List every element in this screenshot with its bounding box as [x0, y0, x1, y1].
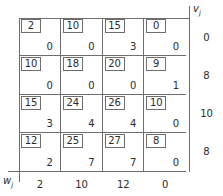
cost-value: 25 [63, 134, 83, 148]
cost-value: 15 [105, 19, 125, 33]
w-dual-value-3: 12 [103, 172, 145, 196]
cost-value: 27 [105, 134, 125, 148]
cost-grid: 2 0 10 0 15 3 0 0 10 0 18 0 20 0 9 [19, 18, 186, 171]
allocation-value: 3 [130, 42, 136, 52]
v-dual-value-3: 10 [190, 95, 223, 133]
allocation-value: 0 [88, 42, 94, 52]
table-cell-r1c1: 2 0 [19, 18, 61, 56]
allocation-value: 4 [88, 119, 94, 129]
w-dual-value-4: 0 [144, 172, 186, 196]
w-dual-value-2: 10 [61, 172, 103, 196]
allocation-value: 7 [130, 158, 136, 168]
table-cell-r3c1: 15 3 [19, 95, 61, 133]
table-cell-r2c3: 20 0 [103, 56, 145, 94]
table-cell-r3c3: 26 4 [103, 95, 145, 133]
allocation-value: 2 [46, 158, 52, 168]
cost-value: 0 [146, 19, 166, 33]
cost-value: 12 [21, 134, 41, 148]
table-cell-r4c2: 25 7 [61, 133, 103, 171]
allocation-value: 3 [46, 119, 52, 129]
w-axis-label-text: w [3, 175, 11, 186]
table-cell-r3c2: 24 4 [61, 95, 103, 133]
v-axis-label-sub: j [199, 9, 201, 17]
table-cell-r2c2: 18 0 [61, 56, 103, 94]
v-dual-value-4: 8 [190, 133, 223, 171]
cost-value: 10 [63, 19, 83, 33]
table-cell-r4c4: 8 0 [144, 133, 186, 171]
v-dual-value-2: 8 [190, 56, 223, 94]
cost-value: 9 [146, 57, 166, 71]
v-dual-value-1: 0 [190, 18, 223, 56]
allocation-value: 4 [130, 119, 136, 129]
allocation-value: 0 [88, 81, 94, 91]
cost-value: 24 [63, 96, 83, 110]
cost-value: 10 [146, 96, 166, 110]
table-cell-r4c1: 12 2 [19, 133, 61, 171]
table-cell-r3c4: 10 0 [144, 95, 186, 133]
table-cell-r2c1: 10 0 [19, 56, 61, 94]
allocation-value: 0 [130, 81, 136, 91]
allocation-value: 0 [173, 158, 179, 168]
cost-value: 20 [105, 57, 125, 71]
cost-value: 2 [21, 19, 41, 33]
allocation-value: 0 [46, 42, 52, 52]
allocation-value: 0 [173, 119, 179, 129]
w-axis-label: wj [3, 175, 13, 189]
cost-value: 26 [105, 96, 125, 110]
table-cell-r1c4: 0 0 [144, 18, 186, 56]
v-axis-label: vj [193, 3, 201, 17]
w-dual-value-1: 2 [19, 172, 61, 196]
allocation-value: 0 [173, 42, 179, 52]
allocation-value: 1 [173, 81, 179, 91]
table-cell-r4c3: 27 7 [103, 133, 145, 171]
table-cell-r1c2: 10 0 [61, 18, 103, 56]
cost-value: 18 [63, 57, 83, 71]
allocation-value: 0 [46, 81, 52, 91]
cost-value: 15 [21, 96, 41, 110]
w-dual-row: 2 10 12 0 [19, 172, 186, 196]
cost-value: 8 [146, 134, 166, 148]
table-cell-r1c3: 15 3 [103, 18, 145, 56]
tableau-figure: 2 0 10 0 15 3 0 0 10 0 18 0 20 0 9 [0, 0, 223, 196]
cost-value: 10 [21, 57, 41, 71]
allocation-value: 7 [88, 158, 94, 168]
w-axis-label-sub: j [11, 181, 13, 189]
v-dual-column: 0 8 10 8 [190, 18, 223, 171]
table-cell-r2c4: 9 1 [144, 56, 186, 94]
